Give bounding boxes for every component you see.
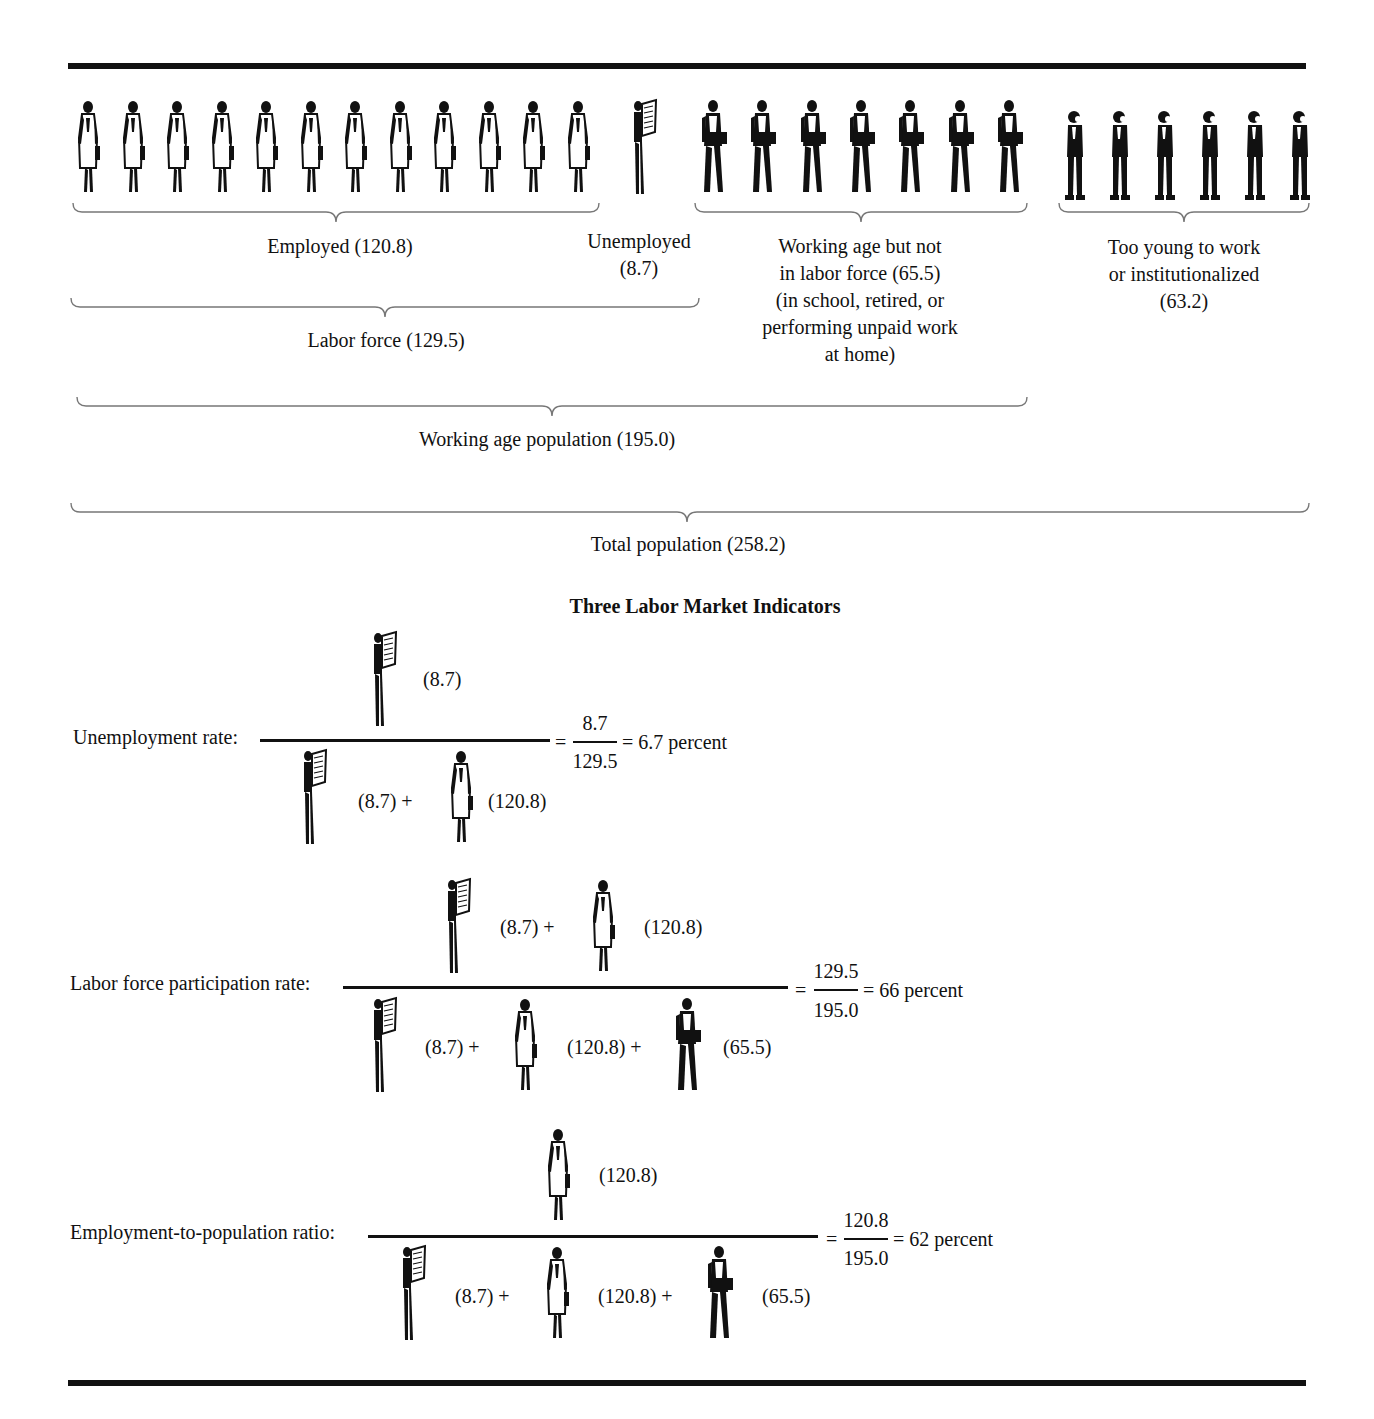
top-rule — [68, 63, 1306, 69]
not-in-labor-force-person-icon — [895, 98, 925, 198]
not-in-labor-force-person-icon — [994, 98, 1024, 198]
unemployed-label: Unemployed (8.7) — [587, 228, 690, 282]
total-population-brace — [70, 502, 1310, 524]
too-young-label: Too young to work or institutionalized (… — [1108, 234, 1260, 315]
equals-sign: = — [555, 731, 566, 754]
result-value: = 62 percent — [893, 1228, 993, 1251]
not-in-labor-force-person-icon — [747, 98, 777, 198]
unemployed-person-icon — [628, 98, 658, 198]
result-denominator: 195.0 — [814, 999, 859, 1022]
equals-sign: = — [826, 1228, 837, 1251]
denominator-value: (120.8) — [488, 790, 546, 813]
employed-person-icon — [73, 98, 103, 198]
too-young-person-icon — [1240, 105, 1270, 205]
labor-force-brace — [70, 297, 700, 319]
unemployed-person-icon — [442, 877, 472, 977]
not-in-labor-force-person-icon — [797, 98, 827, 198]
result-denominator: 129.5 — [573, 750, 618, 773]
employed-person-icon — [474, 98, 504, 198]
not-in-labor-force-person-icon — [704, 1244, 734, 1344]
participation-rate-label: Labor force participation rate: — [70, 972, 310, 995]
result-fraction-line — [573, 741, 617, 743]
indicators-title: Three Labor Market Indicators — [570, 595, 841, 618]
denominator-value: (8.7) + — [358, 790, 413, 813]
fraction-bar — [343, 986, 788, 989]
working-age-label: Working age population (195.0) — [419, 426, 675, 453]
employed-label: Employed (120.8) — [267, 233, 413, 260]
not-in-labor-force-brace — [694, 202, 1028, 224]
employed-person-icon — [385, 98, 415, 198]
too-young-person-icon — [1285, 105, 1315, 205]
employed-person-icon — [588, 877, 618, 977]
employed-brace — [72, 202, 600, 224]
labor-force-label: Labor force (129.5) — [307, 327, 464, 354]
employed-person-icon — [542, 1244, 572, 1344]
not-in-labor-force-person-icon — [698, 98, 728, 198]
employed-person-icon — [296, 98, 326, 198]
equals-sign: = — [795, 979, 806, 1002]
result-numerator: 8.7 — [583, 712, 608, 735]
result-value: = 6.7 percent — [622, 731, 727, 754]
result-fraction-line — [814, 989, 858, 991]
working-age-brace — [76, 396, 1028, 418]
numerator-value: (120.8) — [599, 1164, 657, 1187]
employed-person-icon — [340, 98, 370, 198]
employed-person-icon — [429, 98, 459, 198]
employed-person-icon — [251, 98, 281, 198]
numerator-value: (8.7) + — [500, 916, 555, 939]
fraction-bar — [260, 739, 550, 742]
denominator-value: (120.8) + — [567, 1036, 642, 1059]
too-young-person-icon — [1195, 105, 1225, 205]
denominator-value: (65.5) — [723, 1036, 771, 1059]
numerator-value: (8.7) — [423, 668, 461, 691]
result-value: = 66 percent — [863, 979, 963, 1002]
not-in-labor-force-person-icon — [846, 98, 876, 198]
too-young-person-icon — [1060, 105, 1090, 205]
not-in-labor-force-person-icon — [945, 98, 975, 198]
result-denominator: 195.0 — [844, 1247, 889, 1270]
employed-person-icon — [118, 98, 148, 198]
employed-person-icon — [518, 98, 548, 198]
too-young-person-icon — [1150, 105, 1180, 205]
unemployment-rate-label: Unemployment rate: — [73, 726, 238, 749]
not-in-labor-force-person-icon — [672, 996, 702, 1096]
bottom-rule — [68, 1380, 1306, 1386]
unemployed-person-icon — [368, 996, 398, 1096]
fraction-bar — [368, 1235, 818, 1238]
denominator-value: (8.7) + — [425, 1036, 480, 1059]
not-in-labor-force-label: Working age but not in labor force (65.5… — [762, 233, 958, 368]
denominator-value: (8.7) + — [455, 1285, 510, 1308]
employed-person-icon — [543, 1126, 573, 1226]
result-fraction-line — [844, 1238, 888, 1240]
employment-ratio-label: Employment-to-population ratio: — [70, 1221, 335, 1244]
employed-person-icon — [207, 98, 237, 198]
employed-person-icon — [162, 98, 192, 198]
unemployed-person-icon — [298, 748, 328, 848]
result-numerator: 120.8 — [844, 1209, 889, 1232]
employed-person-icon — [510, 996, 540, 1096]
too-young-brace — [1058, 202, 1310, 224]
unemployed-person-icon — [397, 1244, 427, 1344]
unemployed-person-icon — [368, 630, 398, 730]
numerator-value: (120.8) — [644, 916, 702, 939]
denominator-value: (65.5) — [762, 1285, 810, 1308]
total-population-label: Total population (258.2) — [591, 531, 786, 558]
denominator-value: (120.8) + — [598, 1285, 673, 1308]
result-numerator: 129.5 — [814, 960, 859, 983]
too-young-person-icon — [1105, 105, 1135, 205]
employed-person-icon — [563, 98, 593, 198]
employed-person-icon — [446, 748, 476, 848]
